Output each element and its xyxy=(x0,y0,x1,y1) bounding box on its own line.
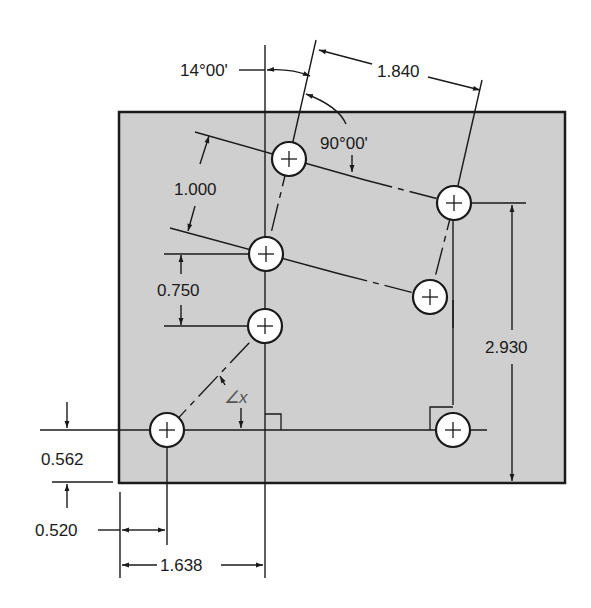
engineering-drawing: 14°00' 1.840 90°00' 1.000 0.750 2.930 ∠x… xyxy=(0,0,591,608)
label-dim-520: 0.520 xyxy=(35,521,78,540)
hole-right-middle xyxy=(413,280,447,314)
label-dim-1000: 1.000 xyxy=(174,180,217,199)
angle-arc-14 xyxy=(267,70,310,76)
label-angle-x: ∠x xyxy=(224,388,248,407)
hole-left-middle xyxy=(249,237,283,271)
dim-line-1840-a xyxy=(319,50,372,64)
label-dim-750: 0.750 xyxy=(157,281,200,300)
label-dim-2930: 2.930 xyxy=(485,338,528,357)
label-dim-1840: 1.840 xyxy=(377,62,420,81)
hole-bottom-right xyxy=(436,413,470,447)
hole-bottom-left xyxy=(150,413,184,447)
hole-right-top xyxy=(437,186,471,220)
label-dim-562: 0.562 xyxy=(41,450,84,469)
dim-line-1840-b xyxy=(428,77,480,90)
label-dim-1638: 1.638 xyxy=(160,556,203,575)
label-angle-14: 14°00' xyxy=(180,61,228,80)
hole-left-top xyxy=(272,142,306,176)
hole-left-lower xyxy=(248,309,282,343)
label-angle-90: 90°00' xyxy=(320,134,368,153)
